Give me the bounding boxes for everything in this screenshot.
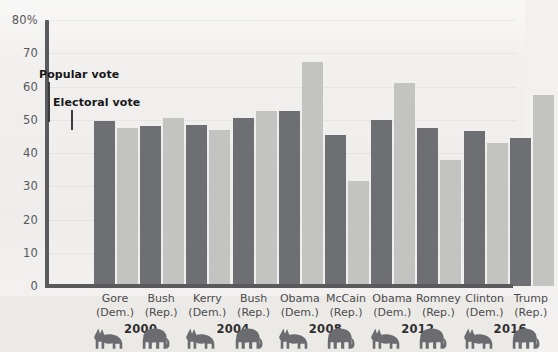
- donkey-icon: [277, 326, 311, 350]
- bar-group: [279, 18, 323, 286]
- callout-electoral-vote-leader-line: [71, 110, 73, 130]
- bar-electoral-vote: [209, 130, 230, 286]
- y-axis-tick-label: 0: [30, 279, 38, 293]
- bar-electoral-vote: [163, 118, 184, 286]
- y-axis-tick-label: 60: [23, 80, 38, 94]
- y-axis-tick-label: 50: [23, 113, 38, 127]
- bar-group: [233, 18, 277, 286]
- callout-popular-vote: Popular vote: [39, 68, 119, 81]
- bar-popular-vote: [325, 135, 346, 286]
- bar-electoral-vote: [256, 111, 277, 286]
- candidate-name: Kerry: [193, 292, 222, 305]
- y-axis-tick-label: 10: [23, 246, 38, 260]
- bar-popular-vote: [371, 120, 392, 286]
- bar-popular-vote: [94, 121, 115, 286]
- bar-electoral-vote: [117, 128, 138, 286]
- bar-popular-vote: [464, 131, 485, 286]
- elephant-icon: [415, 326, 449, 350]
- bar-electoral-vote: [440, 160, 461, 286]
- bar-group: [186, 18, 230, 286]
- y-axis-tick-label: 30: [23, 179, 38, 193]
- bar-electoral-vote: [533, 95, 554, 286]
- candidate-name: Bush: [240, 292, 267, 305]
- bar-group: [325, 18, 369, 286]
- bar-popular-vote: [140, 126, 161, 286]
- bar-electoral-vote: [302, 62, 323, 286]
- donkey-icon: [462, 326, 496, 350]
- x-axis: [45, 284, 513, 288]
- donkey-icon: [92, 326, 126, 350]
- donkey-icon: [184, 326, 218, 350]
- bar-popular-vote: [417, 128, 438, 286]
- y-axis-tick-label: 70: [23, 46, 38, 60]
- candidate-name: Bush: [148, 292, 175, 305]
- x-axis-label: Trump(Rep.): [498, 292, 558, 320]
- bar-popular-vote: [233, 118, 254, 286]
- bar-electoral-vote: [348, 181, 369, 286]
- bar-series-container: [94, 18, 515, 286]
- y-axis-tick-label: 40: [23, 146, 38, 160]
- elephant-icon: [231, 326, 265, 350]
- callout-electoral-vote: Electoral vote: [53, 96, 140, 109]
- plot-area: 01020304050607080%: [45, 18, 515, 286]
- bar-electoral-vote: [394, 83, 415, 286]
- candidate-name: Trump: [514, 292, 548, 305]
- bar-group: [94, 18, 138, 286]
- bar-popular-vote: [510, 138, 531, 286]
- bar-electoral-vote: [487, 143, 508, 286]
- y-axis: [45, 20, 49, 286]
- bar-group: [417, 18, 461, 286]
- callout-popular-vote-leader-line: [48, 82, 50, 122]
- bar-group: [371, 18, 415, 286]
- elephant-icon: [508, 326, 542, 350]
- elephant-icon: [323, 326, 357, 350]
- bar-popular-vote: [279, 111, 300, 286]
- bar-group: [140, 18, 184, 286]
- candidate-name: Gore: [102, 292, 128, 305]
- y-axis-tick-label: 80%: [12, 13, 38, 27]
- candidate-party: (Rep.): [498, 306, 558, 320]
- y-axis-tick-label: 20: [23, 213, 38, 227]
- bar-group: [510, 18, 554, 286]
- donkey-icon: [369, 326, 403, 350]
- elephant-icon: [138, 326, 172, 350]
- bar-group: [464, 18, 508, 286]
- bar-popular-vote: [186, 125, 207, 286]
